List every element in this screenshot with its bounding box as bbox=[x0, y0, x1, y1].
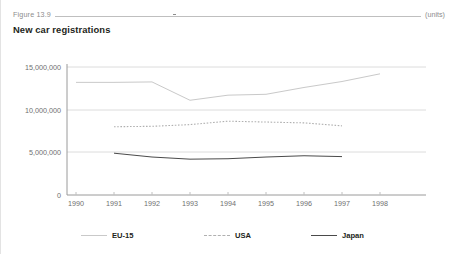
chart-canvas bbox=[1, 0, 453, 254]
chart-legend: EU-15 USA Japan bbox=[1, 228, 453, 244]
legend-line-icon-eu-15 bbox=[81, 232, 107, 240]
legend-label-japan: Japan bbox=[342, 232, 364, 240]
legend-label-eu-15: EU-15 bbox=[112, 232, 134, 240]
legend-item-usa[interactable]: USA bbox=[204, 228, 251, 244]
chart-plot-area: 15,000,000 10,000,000 5,000,000 0 1990 1… bbox=[1, 0, 453, 254]
legend-line-icon-usa bbox=[204, 232, 230, 240]
legend-item-eu-15[interactable]: EU-15 bbox=[81, 228, 134, 244]
series-line-japan bbox=[114, 153, 342, 159]
legend-label-usa: USA bbox=[235, 232, 251, 240]
series-line-usa bbox=[114, 121, 342, 127]
series-line-eu-15 bbox=[76, 74, 380, 100]
figure-panel: Figure 13.9 (units) New car registration… bbox=[0, 0, 453, 254]
legend-line-icon-japan bbox=[311, 232, 337, 240]
gridlines bbox=[67, 67, 426, 152]
legend-item-japan[interactable]: Japan bbox=[311, 228, 364, 244]
